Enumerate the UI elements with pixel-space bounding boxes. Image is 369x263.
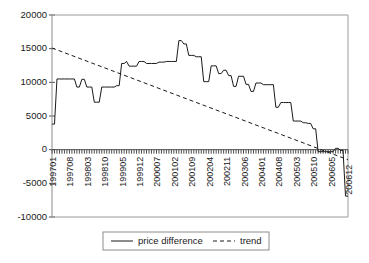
y-tick-label: 20000	[21, 9, 47, 20]
x-tick-label: 200408	[274, 157, 284, 187]
x-tick-label: 200204	[205, 157, 215, 187]
x-tick-label: 199701	[48, 157, 58, 187]
x-tick-label: 200503	[292, 157, 302, 187]
chart-legend[interactable]: price differencetrend	[103, 232, 269, 250]
x-tick-label: 199708	[65, 157, 75, 187]
chart-container: 20000150001000050000-5000-10000 19970119…	[0, 0, 369, 263]
x-tick-label: 199905	[118, 157, 128, 187]
price-difference-trend-chart: 20000150001000050000-5000-10000 19970119…	[0, 0, 369, 263]
x-tick-label: 200401	[257, 157, 267, 187]
legend-label-price-difference: price difference	[138, 235, 203, 246]
x-tick-label: 200605	[327, 157, 337, 187]
plot-frame	[52, 15, 348, 217]
y-tick-label: -10000	[17, 211, 47, 222]
y-tick-label: 0	[42, 143, 47, 154]
price-difference-line	[52, 41, 348, 197]
x-tick-label: 199912	[135, 157, 145, 187]
x-tick-label: 200102	[170, 157, 180, 187]
legend-label-trend: trend	[240, 235, 262, 246]
x-axis-tick-marks	[52, 150, 348, 154]
y-tick-label: -5000	[23, 177, 47, 188]
x-tick-label: 199810	[100, 157, 110, 187]
y-axis-tick-labels: 20000150001000050000-5000-10000	[17, 9, 47, 222]
x-tick-label: 200007	[152, 157, 162, 187]
x-tick-label: 200306	[240, 157, 250, 187]
y-tick-label: 15000	[21, 42, 47, 53]
x-tick-label: 200211	[222, 157, 232, 186]
series-trend	[52, 48, 348, 160]
x-tick-label: 200109	[187, 157, 197, 187]
y-tick-label: 10000	[21, 76, 47, 87]
x-tick-label: 200510	[309, 157, 319, 187]
x-tick-label: 200612	[344, 165, 354, 195]
x-tick-label: 199803	[83, 157, 93, 187]
x-axis-tick-labels: 1997011997081998031998101999051999122000…	[48, 157, 354, 195]
trend-line	[52, 48, 348, 160]
series-price-difference	[52, 41, 348, 197]
y-tick-label: 5000	[26, 110, 47, 121]
